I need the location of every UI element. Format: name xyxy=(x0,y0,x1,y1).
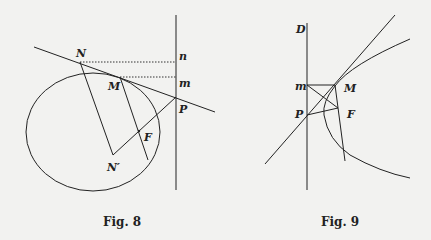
diagram-page: N n M m P F N′ Fig. 8 D m M P F Fig. 9 xyxy=(0,0,431,240)
fig9-label-m: m xyxy=(295,80,307,93)
fig9-diagram: D m M P F Fig. 9 xyxy=(265,15,410,229)
fig8-label-n: n xyxy=(179,50,187,63)
fig9-caption: Fig. 9 xyxy=(321,215,359,229)
fig8-label-N: N xyxy=(75,47,87,60)
fig9-tangent-line xyxy=(265,15,395,164)
fig8-diagram: N n M m P F N′ Fig. 8 xyxy=(26,15,215,229)
fig9-line-M-down xyxy=(335,85,345,161)
fig8-line-N-Nprime xyxy=(80,62,113,155)
fig8-label-P: P xyxy=(178,103,188,116)
fig8-line-M-F xyxy=(120,77,148,160)
fig8-label-m: m xyxy=(179,77,191,90)
fig9-line-P-F xyxy=(307,108,338,115)
figures-canvas: N n M m P F N′ Fig. 8 D m M P F Fig. 9 xyxy=(0,0,431,240)
fig9-label-P: P xyxy=(294,108,304,121)
fig9-label-F: F xyxy=(346,108,356,121)
fig8-ellipse xyxy=(26,73,160,191)
fig9-label-M: M xyxy=(343,82,357,95)
fig8-label-Nprime: N′ xyxy=(106,161,120,174)
fig8-point-F xyxy=(138,130,140,132)
fig8-label-F: F xyxy=(143,131,153,144)
fig8-caption: Fig. 8 xyxy=(103,215,141,229)
fig8-label-M: M xyxy=(107,80,121,93)
fig8-line-Nprime-P xyxy=(113,97,176,155)
fig9-label-D: D xyxy=(295,23,306,36)
